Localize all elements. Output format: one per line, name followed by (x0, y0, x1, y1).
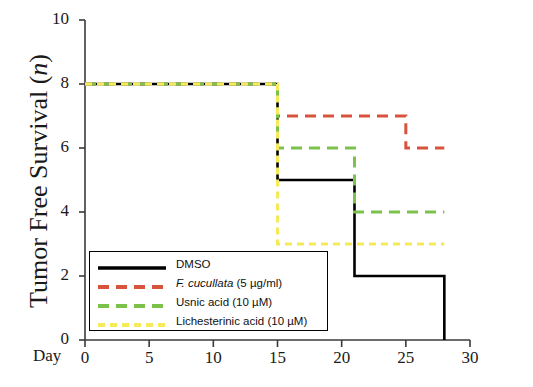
legend-item[interactable]: Usnic acid (10 µM) (90, 294, 327, 314)
y-axis-title-tail: ) (24, 54, 53, 63)
y-tick-label: 4 (33, 201, 69, 221)
legend-item[interactable]: F. cucullata (5 µg/ml) (90, 275, 327, 295)
legend-label: Usnic acid (10 µM) (176, 296, 272, 308)
series-line-4 (85, 84, 444, 244)
x-tick-marks (85, 340, 470, 347)
legend-label: DMSO (176, 258, 211, 270)
legend-label: Lichesterinic acid (10 µM) (176, 315, 307, 327)
x-tick-label: 15 (258, 348, 298, 368)
x-tick-label: 25 (386, 348, 426, 368)
series-line-2 (85, 84, 444, 148)
y-tick-label: 6 (33, 137, 69, 157)
x-tick-label: 0 (65, 348, 105, 368)
y-axis-title: Tumor Free Survival (n) (24, 11, 54, 351)
legend-item[interactable]: DMSO (90, 256, 327, 276)
legend-label: F. cucullata (5 µg/ml) (176, 277, 282, 289)
legend-item[interactable]: Lichesterinic acid (10 µM) (90, 313, 327, 333)
x-tick-label: 30 (450, 348, 490, 368)
y-tick-label: 2 (33, 265, 69, 285)
x-tick-label: 20 (322, 348, 362, 368)
y-tick-label: 0 (33, 329, 69, 349)
legend: DMSOF. cucullata (5 µg/ml)Usnic acid (10… (89, 251, 328, 331)
x-axis-title: Day (33, 346, 61, 366)
x-tick-label: 10 (193, 348, 233, 368)
series-line-3 (85, 84, 444, 212)
x-tick-label: 5 (129, 348, 169, 368)
figure-canvas: Tumor Free Survival (n) Day 0246810 0510… (0, 0, 533, 387)
y-tick-marks (79, 20, 85, 340)
y-tick-label: 8 (33, 73, 69, 93)
y-tick-label: 10 (33, 9, 69, 29)
